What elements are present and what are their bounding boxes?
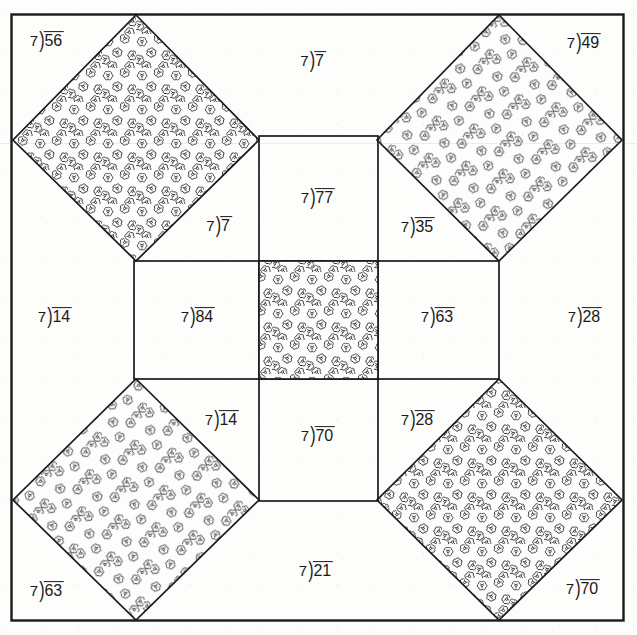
problem-right-outer: 7)28 — [568, 306, 602, 326]
divisor: 7 — [301, 189, 309, 206]
problem-top-left-corner: 7)56 — [30, 30, 64, 50]
division-bracket-icon: ) — [577, 31, 582, 52]
dividend: 49 — [580, 33, 601, 52]
dividend: 14 — [218, 410, 239, 429]
division-bracket-icon: ) — [576, 577, 581, 598]
dividend: 21 — [312, 561, 333, 580]
problem-center-bottom-cell: 7)70 — [301, 425, 335, 445]
dividend: 14 — [51, 307, 72, 326]
problem-center-top-cell: 7)77 — [301, 187, 335, 207]
division-bracket-icon: ) — [310, 49, 315, 70]
division-bracket-icon: ) — [309, 559, 314, 580]
dividend: 56 — [43, 31, 64, 50]
dividend: 63 — [43, 581, 64, 600]
problem-lower-right-inner: 7)28 — [401, 409, 435, 429]
quilt-diagram — [0, 0, 637, 635]
worksheet-page: 7)56 7)7 7)49 7)77 7)7 7)35 7)14 7)84 7)… — [0, 0, 637, 635]
divisor: 7 — [566, 580, 574, 597]
dividend: 63 — [434, 307, 455, 326]
problem-center-right-cell: 7)63 — [421, 306, 455, 326]
divisor: 7 — [567, 34, 575, 51]
problem-upper-left-inner: 7)7 — [206, 215, 232, 235]
dividend: 35 — [414, 217, 435, 236]
divisor: 7 — [300, 52, 308, 69]
division-bracket-icon: ) — [48, 305, 53, 326]
divisor: 7 — [568, 308, 576, 325]
divisor: 7 — [299, 562, 307, 579]
dividend: 28 — [414, 410, 435, 429]
problem-lower-left-inner: 7)14 — [205, 409, 239, 429]
problem-center-left-cell: 7)84 — [181, 306, 215, 326]
dividend: 28 — [581, 307, 602, 326]
division-bracket-icon: ) — [311, 186, 316, 207]
divisor: 7 — [30, 582, 38, 599]
dividend: 84 — [194, 307, 215, 326]
division-bracket-icon: ) — [578, 305, 583, 326]
division-bracket-icon: ) — [216, 214, 221, 235]
division-bracket-icon: ) — [215, 408, 220, 429]
center-square-shaded — [259, 261, 378, 379]
dividend: 7 — [220, 216, 232, 235]
divisor: 7 — [38, 308, 46, 325]
problem-upper-right-inner: 7)35 — [401, 216, 435, 236]
divisor: 7 — [205, 411, 213, 428]
problem-bottom-right-corner: 7)70 — [566, 578, 600, 598]
problem-top-center: 7)7 — [300, 50, 326, 70]
division-bracket-icon: ) — [40, 579, 45, 600]
divisor: 7 — [421, 308, 429, 325]
division-bracket-icon: ) — [191, 305, 196, 326]
problem-top-right-corner: 7)49 — [567, 32, 601, 52]
dividend: 70 — [314, 426, 335, 445]
dividend: 77 — [314, 188, 335, 207]
divisor: 7 — [401, 218, 409, 235]
dividend: 7 — [314, 51, 326, 70]
divisor: 7 — [301, 427, 309, 444]
dividend: 70 — [579, 579, 600, 598]
division-bracket-icon: ) — [411, 408, 416, 429]
divisor: 7 — [401, 411, 409, 428]
divisor: 7 — [30, 32, 38, 49]
problem-left-outer: 7)14 — [38, 306, 72, 326]
divisor: 7 — [206, 217, 214, 234]
division-bracket-icon: ) — [411, 215, 416, 236]
problem-bottom-center: 7)21 — [299, 560, 333, 580]
division-bracket-icon: ) — [311, 424, 316, 445]
division-bracket-icon: ) — [431, 305, 436, 326]
division-bracket-icon: ) — [40, 29, 45, 50]
problem-bottom-left-corner: 7)63 — [30, 580, 64, 600]
divisor: 7 — [181, 308, 189, 325]
